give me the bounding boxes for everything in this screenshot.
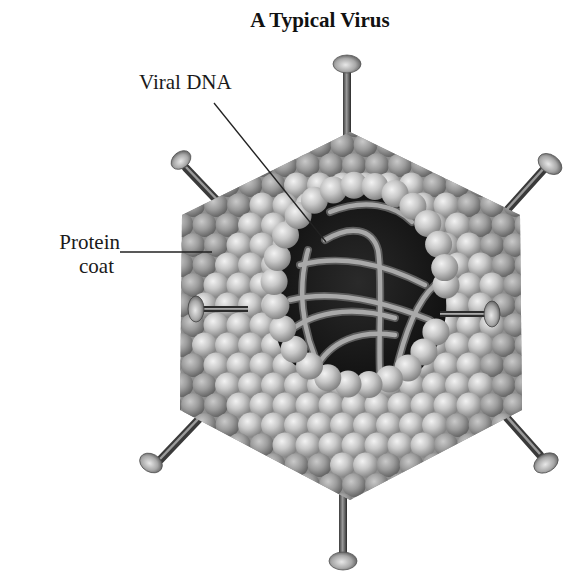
virus-illustration — [0, 0, 585, 584]
spike-bottom — [329, 490, 357, 570]
spike-lower-right — [500, 409, 562, 477]
spike-upper-right — [500, 149, 566, 218]
spike-top — [333, 55, 361, 146]
spike-lower-left — [136, 417, 200, 477]
